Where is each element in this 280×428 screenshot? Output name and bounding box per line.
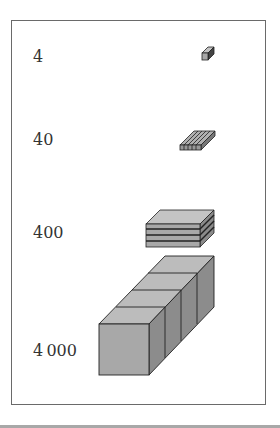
rod-plate-icon	[180, 131, 215, 150]
small-cube-icon	[202, 47, 214, 60]
blocks-illustration	[0, 0, 280, 428]
large-cubes-icon	[99, 256, 214, 375]
flat-stack-icon	[146, 210, 214, 247]
